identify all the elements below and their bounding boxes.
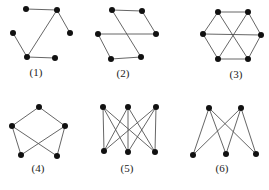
graph-edge (111, 57, 141, 59)
graph-edge (13, 33, 27, 57)
graph-vertex (138, 54, 144, 60)
graph-label: (1) (30, 66, 43, 79)
graph-edge (248, 35, 261, 59)
graph-vertex (190, 152, 196, 158)
graph-edge (12, 126, 57, 156)
graph-vertex (95, 31, 101, 37)
graph-edge (104, 107, 156, 151)
graph-vertex (200, 31, 206, 37)
graph-vertex (153, 31, 159, 37)
graph-vertex (245, 9, 251, 15)
graph-edge (193, 108, 209, 155)
graph-edge (203, 34, 218, 59)
graph-2: (2) (95, 7, 159, 80)
graph-vertex (206, 105, 212, 111)
graph-1: (1) (10, 6, 73, 79)
graph-vertex (245, 56, 251, 62)
graph-label: (6) (216, 162, 229, 175)
graph-label: (4) (32, 162, 45, 175)
graph-vertex (36, 104, 42, 110)
graph-vertex (108, 56, 114, 62)
graph-vertex (54, 7, 60, 13)
graph-edge (112, 10, 141, 57)
graph-vertex (109, 7, 115, 13)
graph-3: (3) (200, 9, 264, 81)
graph-vertex (153, 104, 159, 110)
graph-vertex (125, 149, 131, 155)
graph-vertex (9, 123, 15, 129)
graph-label: (2) (117, 67, 130, 80)
graph-vertex (10, 30, 16, 36)
graph-edge (27, 57, 55, 58)
graph-edge (103, 107, 104, 151)
graph-vertex (125, 104, 131, 110)
graph-edge (104, 107, 128, 151)
graph-vertex (215, 9, 221, 15)
graph-edge (203, 12, 218, 34)
graph-vertex (238, 105, 244, 111)
graph-label: (3) (230, 68, 243, 81)
graph-vertex (101, 148, 107, 154)
graph-edge (12, 126, 21, 155)
graph-vertex (100, 104, 106, 110)
graph-vertex (258, 32, 264, 38)
graph-edge (39, 107, 65, 126)
graph-vertex (215, 56, 221, 62)
graph-label: (5) (121, 162, 134, 175)
graph-vertex (223, 151, 229, 157)
graph-edge (27, 10, 57, 57)
graph-vertex (253, 151, 259, 157)
graph-vertex (23, 6, 29, 12)
graph-vertex (62, 123, 68, 129)
graph-4: (4) (9, 104, 68, 175)
graph-vertex (67, 30, 73, 36)
graph-figure: (1) (2) (3) (4) (5) (6) (0, 0, 269, 190)
graph-edge (248, 12, 261, 35)
graph-edge (142, 11, 156, 34)
graph-vertex (24, 54, 30, 60)
graph-edge (98, 34, 111, 59)
graph-vertex (139, 8, 145, 14)
graph-edge (112, 10, 142, 11)
graph-edge (26, 9, 57, 10)
graph-vertex (152, 149, 158, 155)
graph-vertex (52, 55, 58, 61)
graph-edge (203, 34, 261, 35)
graph-edge (12, 107, 39, 126)
graph-vertex (18, 152, 24, 158)
graph-edge (155, 107, 156, 152)
graph-6: (6) (190, 105, 259, 175)
graph-5: (5) (100, 104, 159, 175)
graph-edge (57, 10, 70, 33)
graph-vertex (54, 153, 60, 159)
